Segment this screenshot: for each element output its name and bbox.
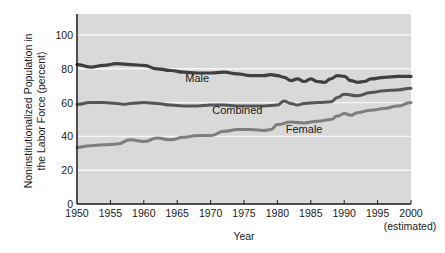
x-tick-label: 1965	[166, 207, 190, 219]
x-tick-label: 1975	[232, 207, 256, 219]
y-axis-ticks: 020406080100	[55, 29, 73, 210]
x-tick-label: 1985	[299, 207, 323, 219]
x-tick-label: 1970	[199, 207, 223, 219]
y-tick-label: 80	[61, 63, 73, 75]
line-chart: MaleCombinedFemale 020406080100 19501955…	[0, 0, 445, 253]
x-tick-label: 1950	[65, 207, 89, 219]
y-axis-title-line-1: Noninstitutionalized Population in	[22, 33, 34, 188]
y-tick-label: 40	[61, 130, 73, 142]
y-axis-title-line-2: the Labor Force (percent)	[35, 51, 47, 170]
x-axis-title: Year	[233, 230, 255, 242]
x-tick-label: 1955	[99, 207, 123, 219]
x-tick-label: 1960	[132, 207, 156, 219]
y-tick-label: 100	[55, 29, 73, 41]
x-axis-note: (estimated)	[384, 220, 437, 232]
x-tick-label: 1980	[266, 207, 290, 219]
series-label-combined: Combined	[212, 104, 262, 116]
x-tick-label: 1995	[366, 207, 390, 219]
x-tick-label: 2000	[399, 207, 423, 219]
series-label-male: Male	[185, 72, 209, 84]
y-tick-label: 20	[61, 164, 73, 176]
y-tick-label: 60	[61, 97, 73, 109]
x-tick-label: 1990	[333, 207, 357, 219]
series-label-female: Female	[286, 123, 323, 135]
